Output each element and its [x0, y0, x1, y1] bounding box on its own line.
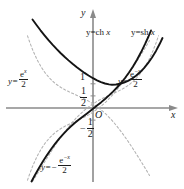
x-axis-label: x — [171, 110, 175, 120]
cosh-label-var: x — [106, 27, 110, 37]
sinh-curve-label: y=sh x — [131, 28, 155, 37]
sinh-label-var: x — [151, 27, 155, 37]
y-axis-label: y — [81, 8, 85, 18]
half-fraction: 12 — [80, 86, 87, 108]
exp-neg-half-label: y=e−x2 — [118, 70, 143, 90]
y-axis-arrowhead — [90, 9, 96, 18]
exp-half-exponent: x — [24, 68, 27, 74]
neg-exp-neg-half-fraction: e−x2 — [58, 156, 71, 176]
neg-exp-neg-half-label: y=−e−x2 — [41, 156, 72, 176]
neg-half-numerator: 1 — [87, 117, 94, 129]
neg-half-fraction: 12 — [87, 117, 94, 139]
exp-neg-half-exponent: −x — [134, 68, 141, 74]
exp-half-fraction: ex2 — [19, 70, 28, 90]
exp-neg-half-denominator: 2 — [129, 80, 142, 89]
curve-exp-neg-half — [28, 36, 150, 176]
neg-half-denominator: 2 — [87, 129, 94, 140]
y-tick-label-half: 12 — [79, 86, 88, 108]
hyperbolic-functions-figure: y x O y=ch x y=sh x y=ex2 y=e−x2 y=−e−x2… — [0, 0, 184, 189]
origin-label: O — [95, 110, 102, 120]
cosh-label-prefix: y=ch — [86, 27, 106, 37]
exp-half-denominator: 2 — [19, 80, 28, 89]
exp-neg-half-fraction: e−x2 — [129, 70, 142, 90]
neg-exp-neg-half-lead: y=− — [41, 162, 57, 172]
cosh-curve-label: y=ch x — [86, 28, 110, 37]
y-tick-label-neg-half: −12 — [80, 117, 95, 139]
half-denominator: 2 — [80, 98, 87, 109]
y-tick-label-one: 1 — [80, 72, 85, 82]
exp-half-lead: y= — [8, 76, 18, 86]
neg-exp-neg-half-exponent: −x — [63, 154, 70, 160]
sinh-label-prefix: y=sh — [131, 27, 151, 37]
neg-exp-neg-half-denominator: 2 — [58, 166, 71, 175]
neg-half-sign: − — [80, 123, 86, 134]
exp-neg-half-lead: y= — [118, 76, 128, 86]
exp-half-label: y=ex2 — [8, 70, 29, 90]
half-numerator: 1 — [80, 86, 87, 98]
